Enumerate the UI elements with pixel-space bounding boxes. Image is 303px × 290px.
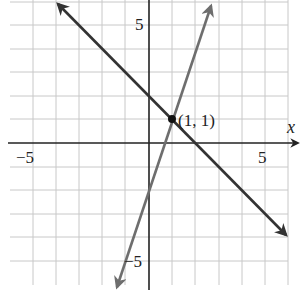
coordinate-graph: (1, 1) x −5 5 5 −5	[0, 0, 303, 290]
y-tick-pos5: 5	[135, 15, 144, 34]
x-tick-pos5: 5	[258, 148, 267, 167]
x-tick-neg5: −5	[16, 148, 34, 167]
intersection-point	[168, 115, 176, 123]
y-tick-neg5: −5	[124, 252, 142, 271]
x-axis-label: x	[286, 117, 295, 137]
intersection-label: (1, 1)	[178, 111, 215, 130]
